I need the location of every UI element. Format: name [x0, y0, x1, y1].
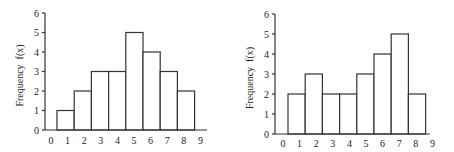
y-tick-label: 5: [34, 27, 39, 38]
histogram-bar: [322, 94, 339, 134]
y-tick-label: 2: [264, 89, 269, 100]
y-tick-label: 0: [34, 125, 39, 136]
histogram-left: 01234560123456789Frequency f(x): [14, 8, 207, 147]
x-tick-label: 6: [148, 135, 153, 146]
x-tick-label: 9: [198, 135, 203, 146]
histogram-right: 01234560123456789Frequency f(x): [244, 9, 435, 150]
y-tick-label: 4: [34, 47, 39, 58]
y-tick-label: 1: [264, 109, 269, 120]
y-tick-label: 3: [34, 66, 39, 77]
histogram-bar: [143, 52, 160, 130]
x-tick-label: 0: [281, 138, 286, 149]
x-tick-label: 8: [413, 138, 418, 149]
x-tick-label: 8: [181, 135, 186, 146]
histogram-bar: [126, 33, 143, 131]
histogram-bar: [357, 74, 374, 134]
x-tick-label: 4: [347, 138, 352, 149]
x-tick-label: 9: [430, 138, 435, 149]
histogram-bar: [340, 94, 357, 134]
x-tick-label: 7: [165, 135, 170, 146]
x-tick-label: 2: [82, 135, 87, 146]
histogram-bar: [177, 91, 194, 130]
y-tick-label: 1: [34, 105, 39, 116]
x-tick-label: 0: [49, 135, 54, 146]
y-tick-label: 6: [34, 8, 39, 19]
y-tick-label: 3: [264, 69, 269, 80]
histogram-bar: [57, 111, 74, 131]
y-axis-label: Frequency f(x): [14, 44, 26, 106]
y-axis-label: Frequency f(x): [244, 47, 256, 109]
x-tick-label: 6: [380, 138, 385, 149]
histogram-bar: [74, 91, 91, 130]
y-tick-label: 6: [264, 9, 269, 20]
y-tick-label: 2: [34, 86, 39, 97]
x-tick-label: 5: [364, 138, 369, 149]
y-tick-label: 4: [264, 49, 269, 60]
x-tick-label: 1: [297, 138, 302, 149]
histogram-bar: [374, 54, 391, 134]
x-tick-label: 3: [98, 135, 103, 146]
x-tick-label: 5: [132, 135, 137, 146]
histogram-bar: [288, 94, 305, 134]
x-tick-label: 3: [330, 138, 335, 149]
x-tick-label: 2: [314, 138, 319, 149]
x-tick-label: 1: [65, 135, 70, 146]
histogram-bar: [160, 72, 177, 131]
histogram-bar: [109, 72, 126, 131]
histograms-figure: 01234560123456789Frequency f(x) 01234560…: [0, 0, 454, 152]
histogram-bar: [391, 34, 408, 134]
y-tick-label: 5: [264, 29, 269, 40]
x-tick-label: 7: [397, 138, 402, 149]
histogram-bar: [305, 74, 322, 134]
histogram-bar: [408, 94, 425, 134]
y-tick-label: 0: [264, 129, 269, 140]
x-tick-label: 4: [115, 135, 120, 146]
histogram-bar: [91, 72, 108, 131]
